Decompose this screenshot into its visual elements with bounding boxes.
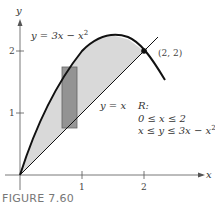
y-tick-label-1: 1 [9, 108, 15, 118]
x-axis-label: x [206, 169, 212, 180]
curve-label: y = 3x − x2 [30, 29, 88, 41]
region-bound-y: x ≤ y ≤ 3x − x2 [138, 124, 215, 136]
region-bound-x: 0 ≤ x ≤ 2 [138, 113, 186, 124]
line-label: y = x [99, 100, 126, 111]
region-title: R: [137, 100, 149, 111]
y-axis-arrow-icon [18, 19, 23, 26]
y-tick-label-2: 2 [9, 46, 15, 56]
figure-caption: FIGURE 7.60 [2, 192, 74, 205]
y-axis-label: y [15, 5, 22, 16]
x-tick-label-2: 2 [141, 182, 147, 192]
point-label: (2, 2) [158, 48, 182, 58]
figure-plot: y x 1 2 1 2 y = 3x − x2 y = x (2, 2) R: … [0, 0, 215, 210]
x-tick-label-1: 1 [79, 182, 85, 192]
x-axis-arrow-icon [198, 173, 205, 178]
intersection-point [141, 48, 147, 54]
